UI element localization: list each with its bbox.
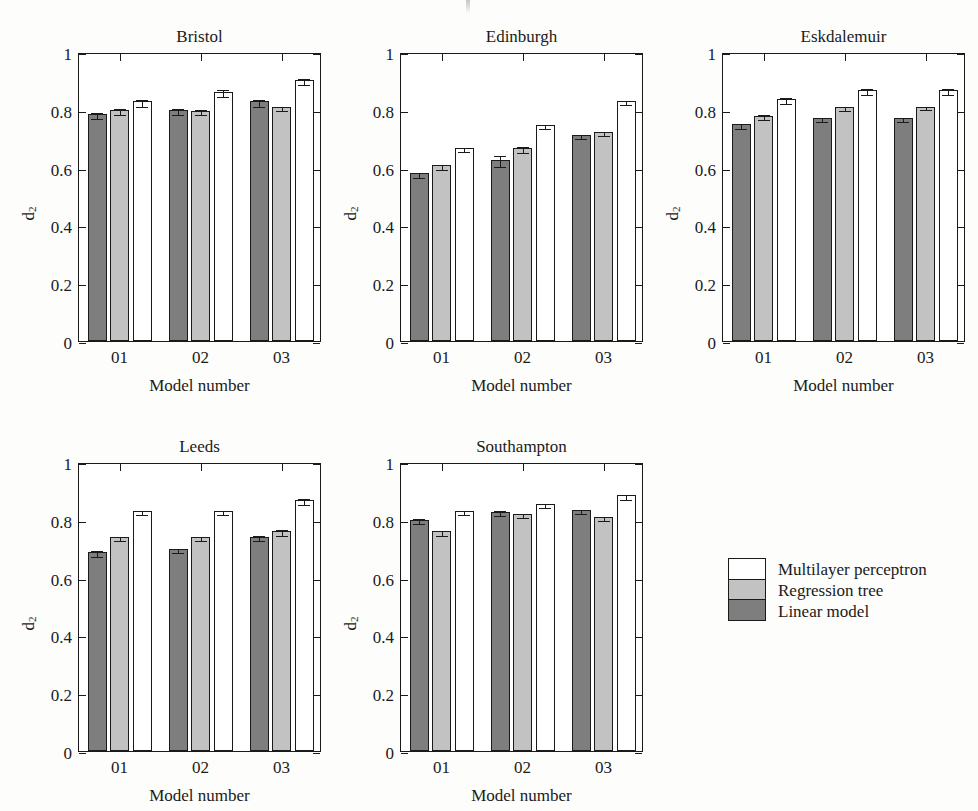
y-axis-tick-label: 0.2 <box>51 687 72 704</box>
x-axis-title: Model number <box>78 376 321 395</box>
error-bar-cap <box>413 173 425 174</box>
y-axis-tick-label: 1 <box>386 456 395 473</box>
error-bar-cap <box>620 495 632 496</box>
x-axis-tick-mirror <box>442 464 443 471</box>
error-bar-cap <box>436 170 448 171</box>
y-axis-tick-label: 1 <box>708 46 717 63</box>
bar <box>594 132 613 341</box>
error-bar-cap <box>195 115 207 116</box>
y-axis-tick <box>723 227 730 228</box>
y-axis-title-subscript: 2 <box>348 616 360 622</box>
y-axis-tick <box>401 227 408 228</box>
y-axis-title-subscript: 2 <box>348 206 360 212</box>
error-bar-cap <box>839 111 851 112</box>
error-bar-cap <box>494 156 506 157</box>
y-axis-tick-mirror <box>957 227 964 228</box>
bar <box>432 531 451 751</box>
error-bar-line <box>223 90 224 97</box>
y-axis-tick-label: 0.2 <box>373 687 394 704</box>
error-bar-cap <box>276 536 288 537</box>
error-bar-line <box>500 156 501 166</box>
y-axis-tick <box>401 580 408 581</box>
x-axis-tick-label: 03 <box>273 759 290 777</box>
error-bar-cap <box>620 500 632 501</box>
bar <box>858 90 877 341</box>
bar <box>88 552 107 751</box>
y-axis-tick <box>723 54 730 55</box>
error-bar-cap <box>598 517 610 518</box>
error-bar-cap <box>897 118 909 119</box>
y-axis-tick <box>401 54 408 55</box>
y-axis-title-base: d <box>341 622 360 631</box>
y-axis-tick-mirror <box>635 227 642 228</box>
error-bar-cap <box>276 530 288 531</box>
x-axis-tick-label: 03 <box>273 349 290 367</box>
error-bar-cap <box>458 511 470 512</box>
y-axis-tick-label: 0.2 <box>695 277 716 294</box>
error-bar-cap <box>217 515 229 516</box>
y-axis-tick <box>401 753 408 754</box>
y-axis-tick <box>401 522 408 523</box>
error-bar-cap <box>780 98 792 99</box>
y-axis-tick-label: 0.4 <box>51 629 72 646</box>
panel-title: Bristol <box>78 27 321 47</box>
error-bar-cap <box>539 508 551 509</box>
y-axis-tick <box>79 464 86 465</box>
error-bar-line <box>259 100 260 107</box>
y-axis-tick-label: 0.4 <box>51 219 72 236</box>
y-axis-tick-label: 0.8 <box>51 513 72 530</box>
bar <box>754 116 773 341</box>
x-axis-title: Model number <box>722 376 965 395</box>
y-axis-tick-mirror <box>313 580 320 581</box>
error-bar-cap <box>897 122 909 123</box>
y-axis-tick-label: 0.4 <box>695 219 716 236</box>
y-axis-tick <box>401 695 408 696</box>
y-axis-tick <box>401 112 408 113</box>
y-axis-tick-label: 0.8 <box>373 513 394 530</box>
y-axis-tick-mirror <box>957 112 964 113</box>
chart-panel-leeds: Leeds00.20.40.60.81010203Model numberd2 <box>18 437 321 811</box>
x-axis-tick-mirror <box>442 54 443 61</box>
bar <box>617 495 636 751</box>
error-bar-cap <box>539 125 551 126</box>
y-axis-tick-mirror <box>957 285 964 286</box>
y-axis-tick-label: 0 <box>386 745 395 762</box>
bar <box>617 101 636 341</box>
x-axis-tick-mirror <box>845 54 846 61</box>
error-bar-cap <box>517 514 529 515</box>
y-axis-tick-label: 0.6 <box>373 571 394 588</box>
y-axis-tick <box>401 170 408 171</box>
error-bar-cap <box>494 511 506 512</box>
y-axis-tick-label: 1 <box>64 46 73 63</box>
y-axis-tick <box>401 285 408 286</box>
bar <box>272 531 291 751</box>
error-bar-cap <box>172 549 184 550</box>
error-bar-cap <box>91 557 103 558</box>
x-axis-tick-mirror <box>201 54 202 61</box>
error-bar-cap <box>539 129 551 130</box>
error-bar-cap <box>861 89 873 90</box>
y-axis-tick-mirror <box>313 112 320 113</box>
error-bar-cap <box>494 167 506 168</box>
x-axis-tick-mirror <box>604 54 605 61</box>
y-axis-tick-mirror <box>635 285 642 286</box>
plot-area: 00.20.40.60.81010203 <box>400 463 643 752</box>
y-axis-tick-mirror <box>635 695 642 696</box>
bar <box>169 110 188 341</box>
y-axis-tick-mirror <box>313 637 320 638</box>
plot-area: 00.20.40.60.81010203 <box>78 463 321 752</box>
error-bar-line <box>142 100 143 107</box>
error-bar-cap <box>575 139 587 140</box>
error-bar-cap <box>195 537 207 538</box>
x-axis-tick-mirror <box>201 464 202 471</box>
bar <box>732 124 751 341</box>
error-bar-cap <box>458 515 470 516</box>
error-bar-cap <box>413 524 425 525</box>
x-axis-title: Model number <box>400 376 643 395</box>
y-axis-tick <box>79 285 86 286</box>
panel-title: Southampton <box>400 437 643 457</box>
x-axis-tick-mirror <box>523 54 524 61</box>
y-axis-tick-label: 0.6 <box>51 161 72 178</box>
x-axis-tick-label: 03 <box>595 759 612 777</box>
y-axis-tick-label: 0.6 <box>373 161 394 178</box>
